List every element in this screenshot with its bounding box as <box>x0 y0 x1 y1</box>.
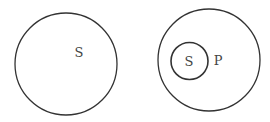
set-p-label: P <box>214 53 223 68</box>
left-venn: S <box>15 13 117 115</box>
venn-diagram-canvas: S S P <box>0 0 270 122</box>
set-s-circle <box>15 13 117 115</box>
set-s-label-inner: S <box>185 54 194 69</box>
outer-circle <box>158 9 260 111</box>
right-venn: S P <box>158 9 260 111</box>
set-s-label: S <box>75 45 84 60</box>
